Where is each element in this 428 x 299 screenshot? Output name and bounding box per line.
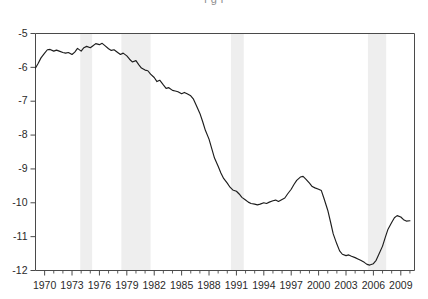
recession-band [231,34,244,271]
x-tick-label: 1979 [115,279,139,291]
y-tick-label: -8 [18,128,27,140]
y-tick-label: -5 [18,27,27,39]
recession-band [368,34,386,271]
x-tick-label: 1970 [33,279,57,291]
recession-bands-group [80,34,386,271]
y-tick-label: -12 [12,264,27,276]
line-chart-plot: 1970197319761979198219851988199119941997… [0,0,428,299]
y-tick-label: -10 [12,196,27,208]
x-axis-tick-labels: 1970197319761979198219851988199119941997… [33,279,413,291]
chart-figure: l g l 1970197319761979198219851988199119… [0,0,428,299]
y-tick-label: -11 [13,230,28,242]
x-tick-label: 1976 [88,279,112,291]
x-tick-label: 1988 [197,279,221,291]
y-axis-ticks [31,34,36,271]
axis-frame [36,34,415,271]
recession-band [80,34,92,271]
x-tick-label: 1985 [170,279,194,291]
x-tick-label: 2000 [307,279,331,291]
x-tick-label: 1982 [143,279,167,291]
x-axis-ticks [45,271,410,276]
x-tick-label: 2006 [362,279,386,291]
y-tick-label: -7 [18,94,27,106]
y-tick-label: -6 [18,61,27,73]
x-tick-label: 2009 [389,279,413,291]
x-tick-label: 2003 [334,279,358,291]
x-tick-label: 1991 [225,279,249,291]
y-tick-label: -9 [18,162,27,174]
x-tick-label: 1994 [252,279,276,291]
y-axis-tick-labels: -5-6-7-8-9-10-11-12 [12,27,27,276]
recession-band [121,34,150,271]
x-tick-label: 1973 [60,279,84,291]
x-tick-label: 1997 [280,279,304,291]
